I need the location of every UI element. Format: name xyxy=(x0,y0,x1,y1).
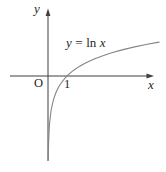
x-axis-label: x xyxy=(148,78,154,91)
x-tick-1-label: 1 xyxy=(64,78,70,91)
y-axis-label: y xyxy=(34,2,40,15)
plot-canvas xyxy=(0,0,166,172)
y-axis-arrowhead xyxy=(46,9,51,17)
ln-graph-figure: y x O 1 y = ln x xyxy=(0,0,166,172)
ln-curve xyxy=(48,42,159,159)
curve-equation-label: y = ln x xyxy=(66,36,106,49)
curve-label-equals: = xyxy=(75,36,82,49)
curve-label-ln: ln xyxy=(86,36,96,49)
origin-label: O xyxy=(34,77,43,90)
curve-label-y: y xyxy=(66,36,72,49)
curve-label-x: x xyxy=(100,36,106,49)
